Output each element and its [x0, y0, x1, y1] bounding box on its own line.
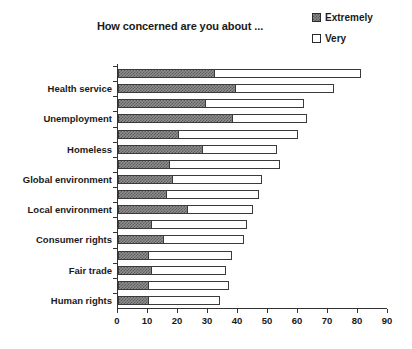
x-axis-tick-label: 30 — [195, 315, 219, 326]
bar-segment-extremely — [118, 69, 214, 78]
x-axis-tick — [117, 309, 118, 313]
x-axis-tick — [237, 309, 238, 313]
bar-segment-extremely — [118, 114, 232, 123]
y-axis-tick — [113, 172, 117, 173]
bar-segment-very — [166, 190, 259, 199]
y-axis-tick — [113, 293, 117, 294]
chart-title: How concerned are you about ... — [60, 20, 300, 32]
bar-segment-extremely — [118, 235, 163, 244]
x-axis-tick — [207, 309, 208, 313]
y-axis-tick — [113, 157, 117, 158]
y-axis-category-label: Local environment — [28, 205, 112, 215]
x-axis-tick — [267, 309, 268, 313]
bar-segment-extremely — [118, 145, 202, 154]
x-axis-tick-label: 90 — [375, 315, 399, 326]
legend-item-extremely: Extremely — [312, 12, 408, 22]
x-axis-ticks — [117, 309, 389, 314]
bar-segment-extremely — [118, 190, 166, 199]
x-axis-tick-label: 60 — [285, 315, 309, 326]
y-axis-tick — [113, 248, 117, 249]
y-axis-tick — [113, 81, 117, 82]
x-axis-tick-labels: 0102030405060708090 — [0, 315, 412, 329]
bar-segment-extremely — [118, 175, 172, 184]
bar-segment-extremely — [118, 266, 151, 275]
bottom-artifact-text — [0, 334, 412, 348]
bar-segment-very — [232, 114, 307, 123]
y-axis-tick — [113, 111, 117, 112]
bar-segment-extremely — [118, 130, 178, 139]
bar-segment-very — [187, 205, 253, 214]
legend-label-very: Very — [325, 33, 346, 44]
y-axis-tick — [113, 187, 117, 188]
bar-segment-extremely — [118, 160, 169, 169]
plot-area — [117, 66, 387, 308]
bar-segment-very — [148, 251, 232, 260]
bar-segment-very — [169, 160, 280, 169]
y-axis-category-label: Fair trade — [69, 266, 112, 276]
y-axis-category-label: Health service — [48, 84, 112, 94]
x-axis-tick — [297, 309, 298, 313]
y-axis-category-label: Global environment — [23, 175, 112, 185]
y-axis-tick — [113, 142, 117, 143]
bar-segment-very — [148, 296, 220, 305]
bar-segment-very — [172, 175, 262, 184]
bar-segment-extremely — [118, 205, 187, 214]
y-axis-tick — [113, 263, 117, 264]
bar-segment-extremely — [118, 99, 205, 108]
bar-segment-very — [148, 281, 229, 290]
x-axis-tick — [357, 309, 358, 313]
legend-swatch-very — [312, 34, 321, 43]
bar-segment-very — [151, 266, 226, 275]
chart-legend: Extremely Very — [312, 12, 408, 54]
y-axis-tick — [113, 217, 117, 218]
legend-item-very: Very — [312, 33, 408, 43]
x-axis-tick — [147, 309, 148, 313]
y-axis-tick — [113, 96, 117, 97]
x-axis-tick-label: 40 — [225, 315, 249, 326]
bar-segment-very — [151, 220, 247, 229]
bar-segment-very — [214, 69, 361, 78]
y-axis-tick — [113, 66, 117, 67]
y-axis-category-label: Homeless — [67, 145, 112, 155]
y-axis-category-label: Human rights — [51, 296, 112, 306]
bar-segment-very — [163, 235, 244, 244]
legend-label-extremely: Extremely — [325, 12, 373, 23]
y-axis-category-label: Consumer rights — [36, 235, 112, 245]
bar-chart: How concerned are you about ... Extremel… — [0, 0, 412, 349]
x-axis-tick-label: 50 — [255, 315, 279, 326]
x-axis-tick-label: 70 — [315, 315, 339, 326]
bar-segment-extremely — [118, 84, 235, 93]
legend-swatch-extremely — [312, 13, 321, 22]
bar-segment-very — [202, 145, 277, 154]
x-axis-tick-label: 80 — [345, 315, 369, 326]
bar-segment-extremely — [118, 251, 148, 260]
bar-segment-extremely — [118, 281, 148, 290]
x-axis-tick-label: 20 — [165, 315, 189, 326]
bar-segment-very — [205, 99, 304, 108]
x-axis-tick — [387, 309, 388, 313]
y-axis-tick — [113, 232, 117, 233]
bar-segment-very — [178, 130, 298, 139]
y-axis-labels: Health serviceUnemploymentHomelessGlobal… — [0, 66, 112, 310]
x-axis-tick — [327, 309, 328, 313]
y-axis-tick — [113, 278, 117, 279]
bar-segment-very — [235, 84, 334, 93]
bar-segment-extremely — [118, 220, 151, 229]
bar-segment-extremely — [118, 296, 148, 305]
y-axis-tick — [113, 127, 117, 128]
y-axis-tick — [113, 202, 117, 203]
x-axis-tick — [177, 309, 178, 313]
x-axis-tick-label: 10 — [135, 315, 159, 326]
y-axis-category-label: Unemployment — [43, 114, 112, 124]
x-axis-tick-label: 0 — [105, 315, 129, 326]
